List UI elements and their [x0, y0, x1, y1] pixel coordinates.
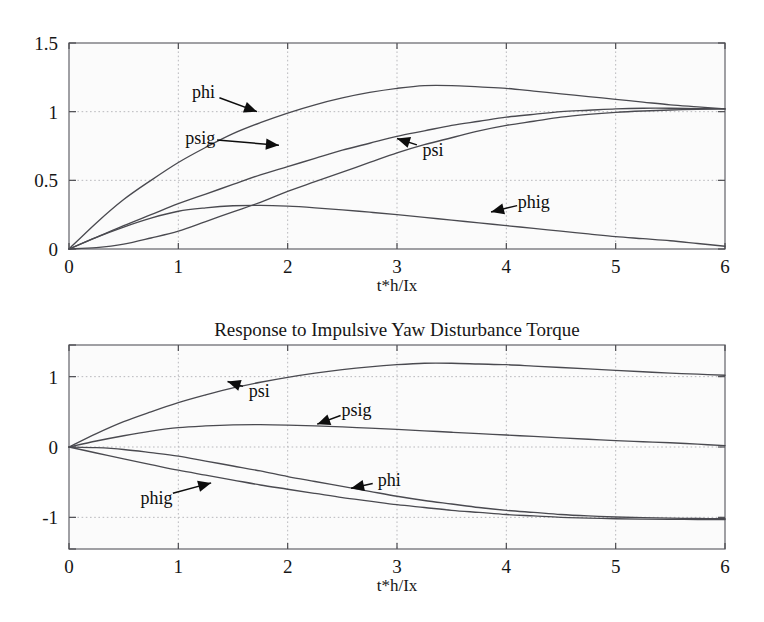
x-axis-label-lower: t*h/Ix: [377, 576, 418, 595]
x-tick-label: 4: [502, 556, 512, 577]
y-tick-label: 0.5: [34, 170, 58, 191]
x-tick-label: 1: [174, 556, 184, 577]
x-tick-label: 6: [720, 256, 730, 277]
curve-annotation-label-phi: phi: [192, 82, 215, 102]
chart-panel-lower: 0123456-101psipsigphiphigResponse to Imp…: [42, 319, 730, 595]
x-tick-label: 4: [502, 256, 512, 277]
chart-panel-upper: 012345600.511.5phipsigpsiphigt*h/Ix: [34, 33, 730, 295]
y-tick-label: 0: [49, 437, 59, 458]
x-tick-label: 0: [64, 556, 74, 577]
y-tick-label: 1.5: [34, 33, 58, 54]
x-tick-label: 2: [283, 256, 293, 277]
x-tick-label: 0: [64, 256, 74, 277]
y-tick-label: 0: [49, 239, 59, 260]
figure-container: 012345600.511.5phipsigpsiphigt*h/Ix01234…: [0, 0, 764, 622]
curve-annotation-label-phig: phig: [140, 488, 172, 508]
y-tick-label: 1: [49, 102, 59, 123]
x-axis-label-upper: t*h/Ix: [377, 276, 418, 295]
curve-annotation-label-psig: psig: [185, 128, 215, 148]
charts-svg: 012345600.511.5phipsigpsiphigt*h/Ix01234…: [0, 0, 764, 622]
y-tick-label: 1: [49, 367, 59, 388]
x-tick-label: 6: [720, 556, 730, 577]
x-tick-label: 2: [283, 556, 293, 577]
x-tick-label: 3: [392, 256, 402, 277]
y-tick-label: -1: [42, 507, 58, 528]
curve-annotation-label-phig: phig: [518, 192, 550, 212]
x-tick-label: 5: [611, 256, 621, 277]
curve-annotation-label-psi: psi: [249, 381, 270, 401]
curve-annotation-label-psi: psi: [423, 140, 444, 160]
x-tick-label: 3: [392, 556, 402, 577]
curve-annotation-label-psig: psig: [342, 400, 372, 420]
plot-title-lower: Response to Impulsive Yaw Disturbance To…: [214, 319, 580, 340]
x-tick-label: 5: [611, 556, 621, 577]
x-tick-label: 1: [174, 256, 184, 277]
curve-annotation-label-phi: phi: [378, 470, 401, 490]
